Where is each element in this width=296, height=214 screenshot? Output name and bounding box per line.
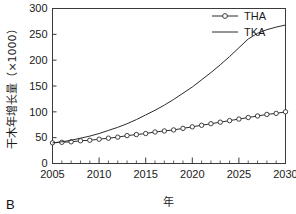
legend-label-tka: TKA [244, 26, 266, 38]
line-chart: 050100150200250300 200520102015202020252… [0, 0, 296, 214]
data-point-marker-tha [106, 136, 110, 140]
data-point-marker-tha [181, 126, 185, 130]
data-point-marker-tha [153, 130, 157, 134]
data-point-marker-tha [274, 111, 278, 115]
data-point-marker-tha [134, 132, 138, 136]
data-series-group [50, 25, 287, 145]
x-axis-tick-label: 2030 [273, 168, 296, 180]
data-point-marker-tha [218, 120, 222, 124]
data-point-marker-tha [88, 138, 92, 142]
data-point-marker-tha [190, 125, 194, 129]
data-point-marker-tha [97, 137, 101, 141]
legend-marker-tha [223, 14, 228, 19]
data-point-marker-tha [237, 117, 241, 121]
figure-panel: 050100150200250300 200520102015202020252… [0, 0, 296, 214]
x-axis-tick-label: 2010 [87, 168, 111, 180]
y-axis-tick-label: 200 [29, 54, 47, 66]
y-axis-tick-label: 150 [29, 80, 47, 92]
x-axis-tick-label: 2020 [180, 168, 204, 180]
series-line-tka [53, 25, 286, 143]
x-axis-title: 年 [163, 195, 174, 209]
data-point-marker-tha [199, 123, 203, 127]
data-point-marker-tha [116, 135, 120, 139]
y-axis-title: 干木年增长量（×1000） [5, 23, 19, 148]
x-axis-tick-label: 2015 [133, 168, 157, 180]
y-axis-tick-label: 300 [29, 2, 47, 14]
x-axis-tick-label: 2025 [227, 168, 251, 180]
data-point-marker-tha [255, 114, 259, 118]
data-point-marker-tha [162, 129, 166, 133]
chart-legend: THATKA [212, 10, 267, 38]
y-axis-tick-label: 250 [29, 28, 47, 40]
data-point-marker-tha [144, 131, 148, 135]
panel-label: B [6, 197, 15, 212]
data-point-marker-tha [283, 110, 287, 114]
y-axis-tick-label: 50 [35, 131, 47, 143]
data-point-marker-tha [125, 133, 129, 137]
y-axis-tick-label: 100 [29, 106, 47, 118]
x-axis: 200520102015202020252030 [40, 158, 296, 180]
legend-label-tha: THA [244, 10, 267, 22]
data-point-marker-tha [265, 112, 269, 116]
data-point-marker-tha [246, 115, 250, 119]
data-point-marker-tha [171, 128, 175, 132]
x-axis-tick-label: 2005 [40, 168, 64, 180]
data-point-marker-tha [209, 122, 213, 126]
data-point-marker-tha [78, 139, 82, 143]
data-point-marker-tha [227, 118, 231, 122]
